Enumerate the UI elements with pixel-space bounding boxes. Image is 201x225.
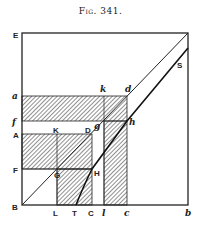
- label-g: g: [94, 121, 100, 131]
- label-S: S: [177, 61, 183, 70]
- label-H: H: [94, 169, 100, 178]
- label-k: k: [100, 84, 106, 94]
- label-L: L: [53, 209, 58, 218]
- label-K: K: [53, 126, 59, 135]
- label-f: f: [11, 117, 18, 127]
- label-D: D: [85, 126, 91, 135]
- label-A: A: [13, 131, 19, 140]
- label-d: d: [125, 84, 132, 94]
- label-b: b: [185, 208, 191, 218]
- label-h: h: [129, 117, 136, 127]
- hatched-rect-a-d: [22, 96, 127, 121]
- label-C: C: [88, 209, 94, 218]
- hatched-rect-G-C: [57, 169, 92, 205]
- label-a: a: [12, 91, 18, 101]
- label-l: l: [102, 208, 106, 218]
- hatched-column-l-c: [104, 121, 127, 205]
- label-T: T: [72, 209, 77, 218]
- geometric-figure: E S a k d f h A K D g F G H B L T C l c …: [0, 0, 201, 225]
- label-c: c: [124, 208, 130, 218]
- label-B: B: [12, 203, 18, 212]
- label-E: E: [13, 31, 19, 40]
- label-F: F: [13, 166, 18, 175]
- label-G: G: [54, 171, 60, 180]
